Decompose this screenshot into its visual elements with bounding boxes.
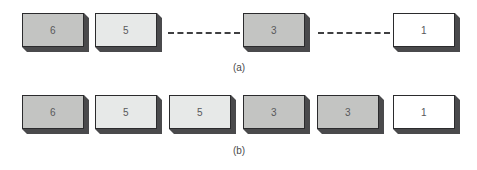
panel-b: 655331 (b) — [0, 82, 477, 170]
block-label: 6 — [22, 95, 84, 129]
block-label: 5 — [95, 95, 157, 129]
panel-b-caption: (b) — [219, 145, 259, 156]
block-1[interactable]: 1 — [393, 95, 455, 129]
figure-canvas: 6531 (a) 655331 (b) — [0, 0, 477, 170]
block-label: 3 — [317, 95, 379, 129]
block-label: 1 — [393, 95, 455, 129]
panel-a-caption: (a) — [219, 62, 259, 73]
block-label: 3 — [243, 95, 305, 129]
block-3[interactable]: 3 — [317, 95, 379, 129]
block-1[interactable]: 1 — [393, 13, 455, 47]
panel-a: 6531 (a) — [0, 0, 477, 82]
block-3[interactable]: 3 — [243, 13, 305, 47]
block-label: 6 — [22, 13, 84, 47]
block-label: 5 — [95, 13, 157, 47]
dashed-connector — [168, 32, 240, 34]
dashed-connector — [318, 32, 390, 34]
block-3[interactable]: 3 — [243, 95, 305, 129]
block-5[interactable]: 5 — [169, 95, 231, 129]
block-label: 3 — [243, 13, 305, 47]
block-label: 5 — [169, 95, 231, 129]
block-5[interactable]: 5 — [95, 95, 157, 129]
block-label: 1 — [393, 13, 455, 47]
block-6[interactable]: 6 — [22, 95, 84, 129]
block-6[interactable]: 6 — [22, 13, 84, 47]
block-5[interactable]: 5 — [95, 13, 157, 47]
